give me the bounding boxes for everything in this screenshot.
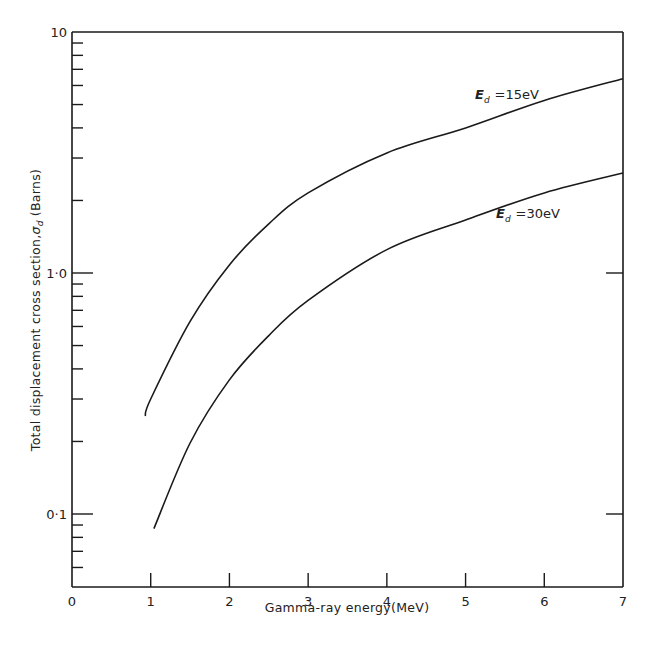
y-axis-title-unit: (Barns)	[28, 169, 43, 216]
x-tick-label: 5	[461, 594, 469, 609]
y-tick-label: 10	[50, 25, 67, 40]
curve-labels: Ed=15eVEd=30eV	[475, 87, 560, 224]
x-tick-label: 1	[147, 594, 155, 609]
y-axis-title-subscript: d	[35, 220, 45, 226]
y-tick-label: 0·1	[46, 507, 67, 522]
displacement-cross-section-chart: 01234567101·00·1 Ed=15eVEd=30eV Gamma-ra…	[0, 0, 652, 647]
curve-label-ed-15ev: Ed=15eV	[475, 87, 539, 105]
axis-ticks	[72, 43, 623, 587]
x-tick-label: 7	[619, 594, 627, 609]
x-tick-label: 0	[68, 594, 76, 609]
curve-label-ed-30ev: Ed=30eV	[496, 206, 560, 224]
curve-ed-30ev	[154, 173, 623, 529]
y-axis-title-main: Total displacement cross section,	[28, 235, 43, 453]
curve-ed-15ev	[145, 79, 623, 416]
x-axis-title: Gamma-ray energy(MeV)	[265, 600, 430, 615]
data-curves	[145, 79, 623, 529]
plot-frame	[72, 32, 623, 587]
y-tick-label: 1·0	[46, 266, 67, 281]
x-tick-label: 6	[540, 594, 548, 609]
tick-labels: 01234567101·00·1	[46, 25, 627, 609]
x-tick-label: 2	[225, 594, 233, 609]
y-axis-title: Total displacement cross section,σd(Barn…	[28, 169, 45, 452]
